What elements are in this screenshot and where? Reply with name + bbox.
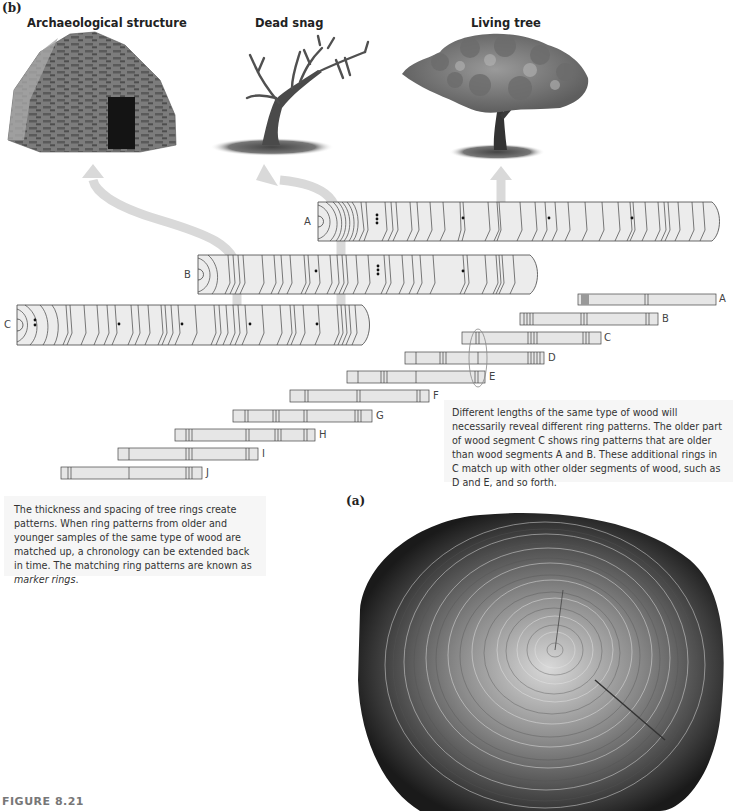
- core-c: [17, 305, 370, 345]
- arrowhead-snag-icon: [256, 164, 278, 186]
- panel-a-label: (a): [346, 494, 365, 508]
- stone-hut-image: [8, 32, 176, 152]
- strip-f-label: F: [433, 390, 439, 401]
- core-b-label: B: [184, 269, 191, 280]
- caption-ring-segments: Different lengths of the same type of wo…: [444, 400, 733, 482]
- core-a: [318, 202, 720, 241]
- strip-d-label: D: [548, 352, 556, 363]
- strip-i-label: I: [262, 448, 265, 459]
- caption-marker-rings-text: The thickness and spacing of tree rings …: [14, 504, 252, 571]
- core-c-label: C: [4, 319, 11, 330]
- tree-cross-section-image: [358, 513, 724, 811]
- strip-g-label: G: [376, 410, 384, 421]
- arrowhead-archaeological-icon: [82, 164, 104, 178]
- strip-h-label: H: [319, 429, 327, 440]
- arrowhead-living-icon: [490, 166, 512, 180]
- strip-c-label: C: [604, 332, 611, 343]
- living-tree-image: [402, 34, 588, 160]
- strip-b-label: B: [662, 313, 669, 324]
- figure-number: FIGURE 8.21: [2, 795, 84, 808]
- caption-end: .: [75, 574, 78, 585]
- strip-e-label: E: [489, 371, 495, 382]
- core-a-label: A: [304, 216, 311, 227]
- marker-rings-term: marker rings: [14, 574, 75, 585]
- caption-marker-rings: The thickness and spacing of tree rings …: [4, 496, 266, 576]
- strip-j-label: J: [206, 467, 209, 478]
- dead-snag-image: [210, 36, 368, 156]
- core-b: [198, 255, 538, 294]
- strip-a-label: A: [719, 293, 726, 304]
